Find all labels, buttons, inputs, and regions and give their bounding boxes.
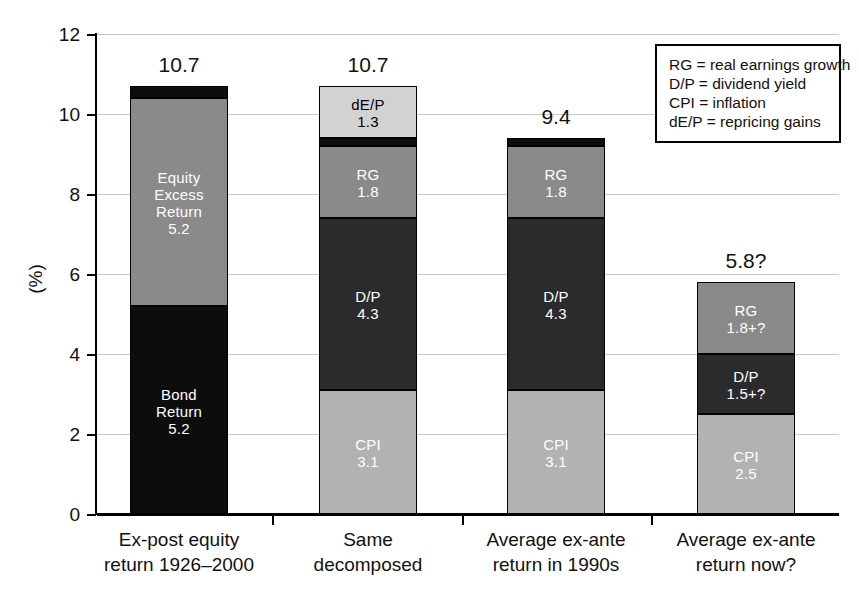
bar-4-dp-line-1: 1.5+? (698, 385, 794, 402)
x-tick-1 (462, 515, 464, 525)
bar-2-segment-rg[interactable]: RG1.8 (319, 146, 417, 218)
bar-2-dp-line-1: 4.3 (320, 305, 416, 322)
bar-2-dep-line-0: dE/P (320, 96, 416, 113)
bar-4-cpi-label: CPI2.5 (698, 448, 794, 482)
legend-item-3: dE/P = repricing gains (669, 112, 829, 131)
category-label-1: Ex-post equityreturn 1926–2000 (74, 527, 284, 577)
y-axis-title: (%) (25, 239, 47, 319)
bar-1-bond-return-line-2: 5.2 (131, 420, 227, 437)
bar-3-segment-cap[interactable] (507, 138, 605, 146)
bar-3-cpi-label: CPI3.1 (508, 436, 604, 470)
legend-item-0: RG = real earnings growth (669, 55, 829, 74)
bar-1-equity-excess-return-line-0: Equity (131, 169, 227, 186)
y-tick-0 (87, 514, 96, 516)
bar-2-segment-dp[interactable]: D/P4.3 (319, 218, 417, 390)
y-tick-2 (87, 434, 96, 436)
y-tick-4 (87, 354, 96, 356)
bar-3-rg-label: RG1.8 (508, 166, 604, 200)
bar-2-dp-label: D/P4.3 (320, 288, 416, 322)
bar-1-total-label: 10.7 (109, 54, 249, 75)
bar-1-segment-bond-return[interactable]: BondReturn5.2 (130, 306, 228, 514)
x-tick-0 (272, 515, 274, 525)
bar-4-segment-rg[interactable]: RG1.8+? (697, 282, 795, 354)
category-label-4-line-0: Average ex-ante (641, 527, 851, 552)
bar-2-segment-cpi[interactable]: CPI3.1 (319, 390, 417, 514)
bar-3-dp-line-1: 4.3 (508, 305, 604, 322)
bar-3-dp-label: D/P4.3 (508, 288, 604, 322)
bar-4-rg-label: RG1.8+? (698, 302, 794, 336)
bar-1-equity-excess-return-line-3: 5.2 (131, 220, 227, 237)
bar-3-dp-line-0: D/P (508, 288, 604, 305)
bar-2-cpi-line-1: 3.1 (320, 453, 416, 470)
bar-3-segment-dp[interactable]: D/P4.3 (507, 218, 605, 390)
bar-4-dp-label: D/P1.5+? (698, 368, 794, 402)
bar-3-rg-line-0: RG (508, 166, 604, 183)
bar-1-equity-excess-return-line-1: Excess (131, 186, 227, 203)
bar-2-segment-dep[interactable]: dE/P1.3 (319, 86, 417, 138)
bar-4-cpi-line-1: 2.5 (698, 465, 794, 482)
bar-1-bond-return-line-1: Return (131, 403, 227, 420)
bar-2-rg-line-1: 1.8 (320, 183, 416, 200)
legend-item-1: D/P = dividend yield (669, 74, 829, 93)
y-tick-label-0: 0 (20, 505, 80, 524)
bar-3-cpi-line-0: CPI (508, 436, 604, 453)
bar-4-segment-dp[interactable]: D/P1.5+? (697, 354, 795, 414)
bar-1-segment-equity-excess-return[interactable]: EquityExcessReturn5.2 (130, 98, 228, 306)
bar-2-cpi-label: CPI3.1 (320, 436, 416, 470)
category-label-4: Average ex-antereturn now? (641, 527, 851, 577)
category-label-3: Average ex-antereturn in 1990s (451, 527, 661, 577)
category-label-2-line-1: decomposed (263, 552, 473, 577)
category-label-3-line-0: Average ex-ante (451, 527, 661, 552)
stacked-bar-chart: 024681012 (%) BondReturn5.2EquityExcessR… (0, 0, 859, 597)
bar-1[interactable]: BondReturn5.2EquityExcessReturn5.2 (130, 34, 228, 514)
category-label-1-line-1: return 1926–2000 (74, 552, 284, 577)
bar-2[interactable]: CPI3.1D/P4.3RG1.8dE/P1.3 (319, 34, 417, 514)
category-label-2-line-0: Same (263, 527, 473, 552)
bar-4-total-label: 5.8? (676, 250, 816, 271)
bar-2-dep-line-1: 1.3 (320, 113, 416, 130)
bar-2-segment-cap[interactable] (319, 138, 417, 146)
y-tick-10 (87, 114, 96, 116)
bar-2-total-label: 10.7 (298, 54, 438, 75)
category-label-4-line-1: return now? (641, 552, 851, 577)
y-tick-label-12: 12 (20, 25, 80, 44)
bar-4-cpi-line-0: CPI (698, 448, 794, 465)
bar-1-segment-cap[interactable] (130, 86, 228, 98)
bar-4-rg-line-1: 1.8+? (698, 319, 794, 336)
y-tick-12 (87, 34, 96, 36)
bar-1-equity-excess-return-label: EquityExcessReturn5.2 (131, 169, 227, 237)
bar-1-bond-return-line-0: Bond (131, 386, 227, 403)
bar-3-total-label: 9.4 (486, 106, 626, 127)
bar-2-rg-line-0: RG (320, 166, 416, 183)
category-label-3-line-1: return in 1990s (451, 552, 661, 577)
y-tick-label-4: 4 (20, 345, 80, 364)
y-tick-label-2: 2 (20, 425, 80, 444)
bar-3-segment-rg[interactable]: RG1.8 (507, 146, 605, 218)
y-tick-label-10: 10 (20, 105, 80, 124)
category-label-1-line-0: Ex-post equity (74, 527, 284, 552)
legend-item-2: CPI = inflation (669, 93, 829, 112)
bar-3-rg-line-1: 1.8 (508, 183, 604, 200)
bar-2-rg-label: RG1.8 (320, 166, 416, 200)
y-tick-label-8: 8 (20, 185, 80, 204)
bar-4-segment-cpi[interactable]: CPI2.5 (697, 414, 795, 514)
y-tick-6 (87, 274, 96, 276)
x-tick-2 (651, 515, 653, 525)
bar-3-segment-cpi[interactable]: CPI3.1 (507, 390, 605, 514)
y-tick-8 (87, 194, 96, 196)
category-label-2: Samedecomposed (263, 527, 473, 577)
bar-2-cpi-line-0: CPI (320, 436, 416, 453)
bar-1-bond-return-label: BondReturn5.2 (131, 386, 227, 437)
bar-4-dp-line-0: D/P (698, 368, 794, 385)
bar-2-dp-line-0: D/P (320, 288, 416, 305)
bar-2-dep-label: dE/P1.3 (320, 96, 416, 130)
bar-4-rg-line-0: RG (698, 302, 794, 319)
legend: RG = real earnings growthD/P = dividend … (655, 44, 841, 143)
bar-1-equity-excess-return-line-2: Return (131, 203, 227, 220)
bar-3-cpi-line-1: 3.1 (508, 453, 604, 470)
